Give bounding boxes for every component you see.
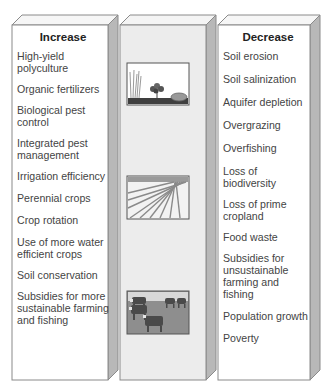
diagram: Increase High-yield polyculture Organic … <box>0 0 324 390</box>
decrease-item: Loss of biodiversity <box>223 165 293 189</box>
increase-item: Perennial crops <box>17 192 109 204</box>
decrease-item: Poverty <box>223 332 313 344</box>
increase-item: Use of more water efficient crops <box>17 236 109 260</box>
plowed-field-rows-illustration <box>127 176 189 219</box>
decrease-item: Soil salinization <box>223 73 313 85</box>
increase-item: Organic fertilizers <box>17 83 109 95</box>
increase-item: Crop rotation <box>17 214 109 226</box>
decrease-column: Decrease Soil erosion Soil salinization … <box>223 31 313 344</box>
increase-item: Irrigation efficiency <box>17 170 109 182</box>
increase-column: Increase High-yield polyculture Organic … <box>17 31 109 326</box>
increase-item: Soil conservation <box>17 269 109 281</box>
decrease-title: Decrease <box>223 31 313 43</box>
polyculture-plants-illustration <box>127 63 189 105</box>
decrease-item: Overgrazing <box>223 119 313 131</box>
decrease-item: Food waste <box>223 231 313 243</box>
increase-item: Biological pest control <box>17 104 109 128</box>
grazing-cattle-illustration <box>127 291 189 334</box>
increase-item: Subsidies for more sustainable farming a… <box>17 290 109 326</box>
increase-item: High-yield polyculture <box>17 50 109 74</box>
decrease-item: Population growth <box>223 310 313 322</box>
increase-title: Increase <box>17 31 109 43</box>
decrease-item: Overfishing <box>223 142 313 154</box>
decrease-item: Loss of prime cropland <box>223 198 299 222</box>
increase-item: Integrated pest management <box>17 137 109 161</box>
decrease-item: Soil erosion <box>223 50 313 62</box>
decrease-item: Subsidies for unsustainable farming and … <box>223 252 303 300</box>
decrease-item: Aquifer depletion <box>223 96 313 108</box>
